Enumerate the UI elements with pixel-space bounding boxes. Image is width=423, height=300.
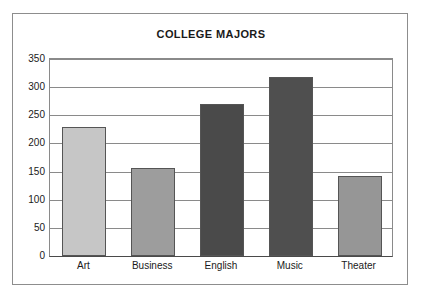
x-axis-tick-label: Theater (341, 260, 375, 271)
y-axis-tick-label: 50 (15, 221, 49, 232)
bar-slot (50, 59, 119, 256)
chart-frame: COLLEGE MAJORS 050100150200250300350 Art… (12, 13, 408, 285)
bar-business[interactable] (131, 168, 175, 256)
y-axis-tick-label: 350 (15, 53, 49, 64)
y-axis-tick-label: 100 (15, 193, 49, 204)
y-axis-tick-label: 200 (15, 137, 49, 148)
bar-slot (188, 59, 257, 256)
y-axis-labels: 050100150200250300350 (13, 58, 49, 257)
bar-theater[interactable] (338, 176, 382, 256)
chart-title: COLLEGE MAJORS (13, 28, 409, 40)
bars-layer (50, 59, 392, 256)
x-axis-tick-label: English (205, 260, 238, 271)
bar-slot (325, 59, 394, 256)
y-axis-tick-label: 0 (15, 250, 49, 261)
x-axis-tick-label: Music (277, 260, 303, 271)
plot-area (49, 58, 393, 257)
bar-slot (256, 59, 325, 256)
x-axis-tick-label: Art (77, 260, 90, 271)
y-axis-tick-label: 300 (15, 81, 49, 92)
bar-english[interactable] (200, 104, 244, 256)
x-axis-tick-label: Business (132, 260, 173, 271)
bar-art[interactable] (62, 127, 106, 256)
y-axis-tick-label: 150 (15, 165, 49, 176)
bar-slot (119, 59, 188, 256)
bar-music[interactable] (269, 77, 313, 256)
y-axis-tick-label: 250 (15, 109, 49, 120)
x-axis-labels: ArtBusinessEnglishMusicTheater (49, 260, 393, 278)
